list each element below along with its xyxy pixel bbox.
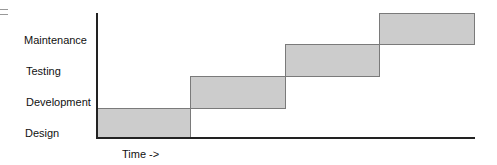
bar-testing [285, 44, 380, 77]
menu-icon [0, 9, 8, 15]
phase-label-maintenance: Maintenance [24, 34, 87, 47]
phase-label-design: Design [25, 127, 59, 140]
bar-development [190, 76, 286, 109]
phase-label-testing: Testing [26, 65, 61, 78]
phase-label-development: Development [26, 96, 91, 109]
bar-maintenance [379, 13, 475, 45]
x-axis [96, 137, 475, 139]
x-axis-label: Time -> [122, 148, 159, 161]
y-axis [96, 13, 98, 139]
bar-design [97, 108, 191, 138]
